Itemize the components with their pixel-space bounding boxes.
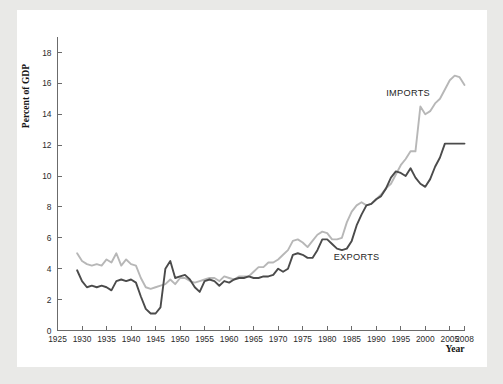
x-tick-label: 1965	[244, 334, 263, 344]
y-tick-label: 4	[47, 264, 52, 274]
x-tick-label: 2000	[416, 334, 435, 344]
x-tick-label: 1975	[293, 334, 312, 344]
y-tick-label: 14	[42, 109, 52, 119]
series-annotation-exports: EXPORTS	[334, 252, 380, 262]
y-tick-label: 8	[47, 202, 52, 212]
x-tick-label: 1925	[48, 334, 67, 344]
x-axis-ticks: 1925193019351940194519501955196019651970…	[48, 326, 474, 344]
figure-root: 024681012141618 192519301935194019451950…	[0, 0, 503, 384]
y-axis-ticks: 024681012141618	[42, 48, 62, 336]
series-lines	[77, 76, 464, 314]
y-axis-title: Percent of GDP	[20, 64, 31, 128]
x-tick-label: 1945	[146, 334, 165, 344]
x-tick-label: 1990	[367, 334, 386, 344]
x-tick-label: 1930	[73, 334, 92, 344]
y-tick-label: 12	[42, 140, 52, 150]
x-tick-label: 1960	[220, 334, 239, 344]
y-tick-label: 6	[47, 233, 52, 243]
series-line-exports	[77, 144, 464, 314]
series-annotations: IMPORTSEXPORTS	[334, 88, 430, 263]
x-tick-label: 1950	[171, 334, 190, 344]
y-tick-label: 18	[42, 48, 52, 58]
x-tick-label: 1935	[97, 334, 116, 344]
series-annotation-imports: IMPORTS	[386, 88, 430, 98]
y-tick-label: 16	[42, 78, 52, 88]
x-tick-label: 1955	[195, 334, 214, 344]
x-tick-label: 1970	[269, 334, 288, 344]
series-line-imports	[77, 76, 464, 289]
x-tick-label: 1940	[122, 334, 141, 344]
x-tick-label: 1985	[342, 334, 361, 344]
y-tick-label: 2	[47, 295, 52, 305]
chart-canvas: 024681012141618 192519301935194019451950…	[0, 0, 503, 384]
x-tick-label: 1980	[318, 334, 337, 344]
x-axis-title: Year	[445, 343, 465, 354]
y-tick-label: 10	[42, 171, 52, 181]
x-tick-label: 1995	[391, 334, 410, 344]
